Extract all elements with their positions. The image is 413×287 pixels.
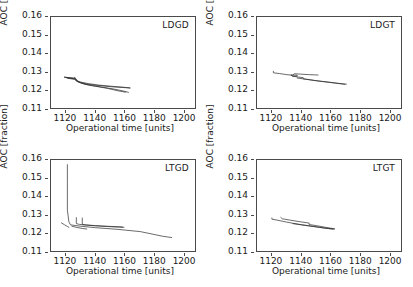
x-axis-label: Operational time [units] — [236, 266, 413, 276]
x-tick-label: 1180 — [349, 113, 372, 123]
y-tick-mark — [45, 16, 48, 17]
x-tick-label: 1180 — [349, 256, 372, 266]
x-tick-mark — [154, 253, 155, 256]
series-line — [293, 224, 335, 229]
y-tick-label: 0.14 — [0, 190, 42, 200]
y-tick-label: 0.14 — [204, 47, 248, 57]
series-lines — [257, 17, 403, 110]
x-tick-label: 1200 — [379, 113, 402, 123]
y-tick-mark — [45, 53, 48, 54]
series-line — [281, 217, 335, 228]
y-tick-mark — [251, 16, 254, 17]
y-tick-label: 0.14 — [0, 47, 42, 57]
y-tick-label: 0.15 — [0, 29, 42, 39]
y-tick-label: 0.15 — [204, 29, 248, 39]
y-tick-label: 0.12 — [0, 227, 42, 237]
y-tick-label: 0.12 — [204, 227, 248, 237]
x-tick-mark — [65, 253, 66, 256]
y-tick-mark — [45, 109, 48, 110]
x-tick-mark — [95, 253, 96, 256]
x-tick-mark — [301, 110, 302, 113]
x-tick-mark — [301, 253, 302, 256]
x-tick-label: 1160 — [113, 256, 136, 266]
panel-ltgd: AOC [fraction] 0.160.150.140.130.120.11 … — [0, 143, 206, 286]
x-tick-label: 1120 — [259, 113, 282, 123]
y-tick-mark — [251, 178, 254, 179]
y-tick-mark — [45, 233, 48, 234]
x-tick-label: 1140 — [289, 113, 312, 123]
y-tick-mark — [45, 35, 48, 36]
x-tick-label: 1140 — [83, 113, 106, 123]
y-axis-ticks: 0.160.150.140.130.120.11 — [0, 159, 48, 252]
plot-area: LDGD — [50, 16, 196, 109]
x-axis-ticks: 11201140116011801200 — [256, 253, 402, 267]
y-tick-mark — [251, 159, 254, 160]
x-axis-ticks: 11201140116011801200 — [256, 110, 402, 124]
x-tick-mark — [390, 253, 391, 256]
y-tick-mark — [251, 252, 254, 253]
y-tick-label: 0.14 — [204, 190, 248, 200]
panel-title: LDGT — [370, 20, 395, 30]
x-tick-label: 1160 — [319, 256, 342, 266]
x-tick-mark — [271, 253, 272, 256]
x-tick-label: 1200 — [173, 113, 196, 123]
y-tick-mark — [45, 215, 48, 216]
plot-area: LTGT — [256, 159, 402, 252]
x-tick-label: 1160 — [319, 113, 342, 123]
x-tick-mark — [330, 110, 331, 113]
y-tick-label: 0.13 — [0, 66, 42, 76]
y-tick-label: 0.11 — [204, 246, 248, 256]
y-tick-mark — [251, 53, 254, 54]
series-line — [297, 78, 346, 84]
series-line — [291, 75, 297, 76]
x-tick-mark — [65, 110, 66, 113]
series-lines — [257, 160, 403, 253]
y-tick-label: 0.13 — [204, 66, 248, 76]
y-axis-ticks: 0.160.150.140.130.120.11 — [206, 159, 254, 252]
y-tick-mark — [45, 252, 48, 253]
y-tick-mark — [251, 72, 254, 73]
plot-area: LDGT — [256, 16, 402, 109]
x-axis-label: Operational time [units] — [236, 123, 413, 133]
y-tick-label: 0.15 — [204, 172, 248, 182]
y-tick-label: 0.13 — [204, 209, 248, 219]
x-axis-ticks: 11201140116011801200 — [50, 253, 196, 267]
x-tick-label: 1140 — [289, 256, 312, 266]
x-tick-label: 1200 — [173, 256, 196, 266]
y-tick-label: 0.15 — [0, 172, 42, 182]
y-tick-mark — [251, 215, 254, 216]
series-lines — [51, 160, 197, 253]
panel-ltgt: AOC [fraction] 0.160.150.140.130.120.11 … — [206, 143, 412, 286]
panel-ldgd: AOC [fraction] 0.160.150.140.130.120.11 … — [0, 0, 206, 143]
y-tick-label: 0.16 — [204, 10, 248, 20]
y-tick-mark — [251, 233, 254, 234]
y-tick-mark — [45, 90, 48, 91]
panel-title: LDGD — [162, 20, 189, 30]
x-axis-label: Operational time [units] — [30, 266, 210, 276]
x-tick-mark — [154, 110, 155, 113]
y-tick-mark — [45, 196, 48, 197]
panel-ldgt: AOC [fraction] 0.160.150.140.130.120.11 … — [206, 0, 412, 143]
x-tick-mark — [95, 110, 96, 113]
x-tick-label: 1200 — [379, 256, 402, 266]
y-tick-mark — [251, 196, 254, 197]
y-tick-mark — [45, 72, 48, 73]
x-tick-mark — [184, 110, 185, 113]
y-tick-label: 0.13 — [0, 209, 42, 219]
x-tick-mark — [124, 110, 125, 113]
x-tick-label: 1160 — [113, 113, 136, 123]
y-tick-label: 0.11 — [0, 246, 42, 256]
series-line — [273, 71, 318, 75]
x-tick-label: 1120 — [259, 256, 282, 266]
x-tick-label: 1120 — [53, 256, 76, 266]
y-tick-label: 0.16 — [0, 153, 42, 163]
panel-title: LTGD — [165, 163, 189, 173]
series-line — [61, 223, 68, 227]
x-tick-mark — [271, 110, 272, 113]
x-axis-label: Operational time [units] — [30, 123, 210, 133]
y-tick-mark — [45, 159, 48, 160]
x-tick-mark — [360, 110, 361, 113]
x-tick-mark — [390, 110, 391, 113]
y-tick-mark — [251, 109, 254, 110]
x-tick-label: 1180 — [143, 113, 166, 123]
